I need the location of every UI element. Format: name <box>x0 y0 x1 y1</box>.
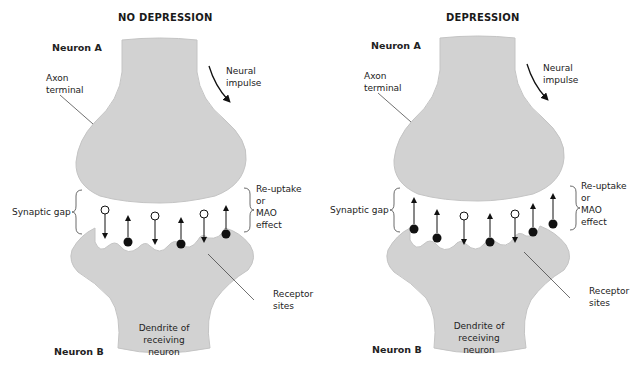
dendrite-label-line2: receiving <box>449 332 509 344</box>
transmitter-filled-up <box>486 216 495 247</box>
reuptake-brace-icon <box>570 186 580 230</box>
transmitter-filled-up <box>529 206 538 237</box>
dendrite-label-line1: Dendrite of <box>134 322 194 334</box>
axon-terminal-label-line2: terminal <box>46 84 84 96</box>
reuptake-label-line1: Re-uptake <box>256 183 302 195</box>
neural-impulse-label-line2: impulse <box>226 77 261 89</box>
transmitter-open-down <box>460 212 468 242</box>
transmitter-filled-up <box>410 200 419 234</box>
transmitter-open-down <box>151 212 159 242</box>
dendrite-label-line3: neuron <box>449 344 509 356</box>
reuptake-label-line4: effect <box>581 216 607 228</box>
transmitter-filled-up <box>124 218 133 247</box>
panel-title: NO DEPRESSION <box>118 12 213 23</box>
receptor-sites-label-line1: Receptor <box>589 285 629 297</box>
panel-title: DEPRESSION <box>446 12 520 23</box>
reuptake-brace-icon <box>244 188 254 232</box>
neural-impulse-label-line2: impulse <box>543 74 578 86</box>
transmitter-filled-up <box>177 220 186 249</box>
receptor-sites-label-line2: sites <box>589 297 610 309</box>
panel-no-depression: NO DEPRESSION Neuron A Axon terminal Neu… <box>0 0 318 371</box>
transmitter-filled-up <box>549 196 558 229</box>
synaptic-gap-brace-icon <box>72 190 82 234</box>
dendrite-label-line1: Dendrite of <box>449 320 509 332</box>
neuron-b-label: Neuron B <box>372 344 422 356</box>
neuron-b-label: Neuron B <box>54 346 104 358</box>
receptor-sites-label-line1: Receptor <box>273 288 313 300</box>
reuptake-label-line4: effect <box>256 219 282 231</box>
axon-terminal-label-line1: Axon <box>46 72 68 84</box>
axon-terminal-label-line1: Axon <box>364 70 386 82</box>
transmitter-open-down <box>101 206 109 236</box>
transmitter-filled-up <box>433 212 442 243</box>
reuptake-label-line1: Re-uptake <box>581 180 627 192</box>
axon-terminal-label-line2: terminal <box>364 82 402 94</box>
neuron-a-label: Neuron A <box>371 40 421 52</box>
reuptake-label-line3: MAO <box>256 207 277 219</box>
transmitter-filled-up <box>222 208 231 239</box>
receptor-sites-label-line2: sites <box>273 300 294 312</box>
neural-impulse-label-line1: Neural <box>543 62 573 74</box>
reuptake-label-line3: MAO <box>581 204 602 216</box>
reuptake-label-line2: or <box>256 195 265 207</box>
dendrite-label-line3: neuron <box>134 346 194 358</box>
neuron-a-label: Neuron A <box>52 42 102 54</box>
synaptic-gap-label: Synaptic gap <box>330 204 389 216</box>
neuron-a-shape <box>76 38 246 203</box>
neural-impulse-label-line1: Neural <box>226 65 256 77</box>
neuron-a-shape <box>394 36 564 201</box>
synaptic-gap-label: Synaptic gap <box>12 206 71 218</box>
panel-depression: DEPRESSION Neuron A Axon terminal Neural… <box>318 0 636 371</box>
reuptake-label-line2: or <box>581 192 590 204</box>
synaptic-gap-brace-icon <box>390 188 400 232</box>
dendrite-label-line2: receiving <box>134 334 194 346</box>
